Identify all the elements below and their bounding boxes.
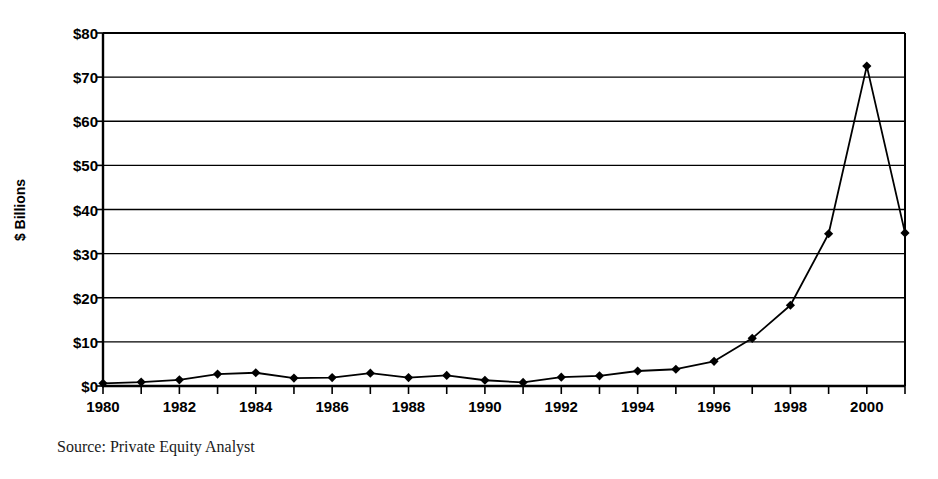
data-point-marker <box>557 373 566 382</box>
data-point-marker <box>595 371 604 380</box>
data-point-markers <box>98 61 909 387</box>
data-point-marker <box>366 369 375 378</box>
data-point-marker <box>900 228 909 237</box>
data-point-marker <box>633 366 642 375</box>
x-tick-marks <box>103 386 905 394</box>
chart-figure: $ Billions $0$10$20$30$40$50$60$70$80 19… <box>0 0 938 479</box>
data-point-marker <box>175 375 184 384</box>
data-point-marker <box>404 373 413 382</box>
data-point-marker <box>442 371 451 380</box>
data-point-marker <box>213 369 222 378</box>
data-point-marker <box>480 376 489 385</box>
data-line-series-1 <box>103 66 905 383</box>
data-point-marker <box>862 61 871 70</box>
data-point-marker <box>289 373 298 382</box>
data-point-marker <box>824 229 833 238</box>
data-point-marker <box>709 357 718 366</box>
gridlines <box>103 33 905 386</box>
data-point-marker <box>251 368 260 377</box>
data-point-marker <box>671 365 680 374</box>
data-point-marker <box>328 373 337 382</box>
source-note: Source: Private Equity Analyst <box>57 438 255 456</box>
plot-area <box>0 0 938 479</box>
